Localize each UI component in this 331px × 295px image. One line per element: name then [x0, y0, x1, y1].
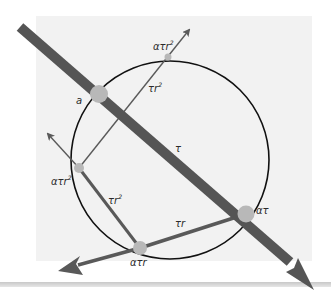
- node-at: [238, 206, 255, 223]
- line-tau-r2-lower: [79, 168, 140, 248]
- label-tau: τ: [175, 143, 182, 154]
- node-a: [90, 85, 108, 103]
- label-atr: ατr: [130, 257, 148, 268]
- label-tau-r2-upper: τr2: [148, 81, 162, 94]
- label-a: a: [76, 95, 82, 106]
- label-tau-r2-lower: τr2: [108, 193, 122, 206]
- spiral-similarity-diagram: a ατr2 τr2 τ ατr2 τr2 τr ατ ατr: [0, 0, 331, 295]
- label-tau-r: τr: [175, 218, 186, 229]
- node-atr2-top: [165, 54, 172, 61]
- diagram-canvas: a ατr2 τr2 τ ατr2 τr2 τr ατ ατr: [0, 0, 331, 295]
- node-atr: [133, 241, 147, 255]
- label-atr2-top: ατr2: [153, 39, 174, 52]
- label-atr2-left: ατr2: [51, 174, 72, 187]
- arrow-up-left: [48, 134, 79, 168]
- line-tau-r: [140, 214, 246, 248]
- arrow-down-right-head: [286, 258, 314, 290]
- label-at: ατ: [256, 205, 270, 216]
- node-atr2-left: [74, 163, 84, 173]
